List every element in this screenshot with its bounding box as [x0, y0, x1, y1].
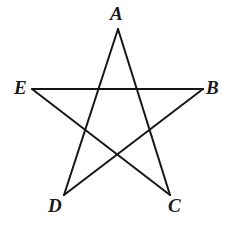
pentagram-figure: A B C D E — [0, 0, 235, 225]
edge-b-d — [64, 89, 203, 195]
vertex-label-d: D — [48, 196, 62, 215]
vertex-label-c: C — [168, 196, 181, 215]
pentagram-svg — [0, 0, 235, 225]
vertex-label-a: A — [110, 4, 123, 23]
pentagram-edges — [32, 29, 203, 195]
edge-a-c — [118, 29, 170, 195]
edge-d-a — [64, 29, 118, 195]
vertex-label-b: B — [206, 78, 219, 97]
edge-c-e — [32, 89, 170, 195]
vertex-label-e: E — [14, 78, 27, 97]
